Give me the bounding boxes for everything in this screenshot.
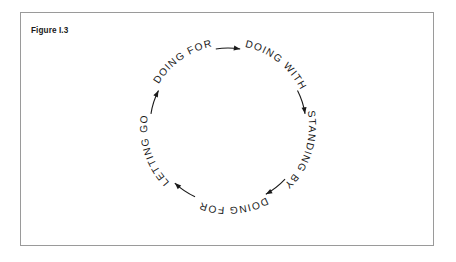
figure-root: Figure I.3 DOING FORDOING WITHSTANDING B… (0, 0, 456, 262)
cycle-label-text: STANDING BY (282, 110, 318, 192)
cycle-label-text: DOING WITH (244, 38, 309, 92)
cycle-label-doing-for-top: DOING FOR (151, 38, 213, 86)
cycle-label-standing-by: STANDING BY (282, 110, 318, 192)
cycle-label-text: LETTING GO (138, 114, 171, 188)
arrow-head-icon (266, 189, 273, 194)
cycle-diagram: DOING FORDOING WITHSTANDING BYDOING FORL… (0, 0, 456, 262)
cycle-arrow-arrow-top (216, 45, 240, 50)
cycle-arrow-arrow-right-upper (298, 91, 307, 114)
cycle-label-doing-for-bottom: DOING FOR (197, 196, 270, 216)
cycle-arrow-arrow-left-upper (151, 91, 159, 114)
cycle-label-text: DOING FOR (151, 38, 213, 86)
cycle-arrow-arrow-right-lower (266, 179, 285, 194)
cycle-label-letting-go: LETTING GO (138, 114, 171, 188)
arrow-head-icon (302, 107, 307, 114)
arrow-head-icon (153, 91, 158, 98)
cycle-label-text: DOING FOR (197, 196, 270, 216)
cycle-arrow-arrow-bottom-left (175, 183, 195, 197)
cycle-label-doing-with: DOING WITH (244, 38, 309, 92)
arrow-head-icon (233, 45, 240, 50)
cycle-label-layer: DOING FORDOING WITHSTANDING BYDOING FORL… (138, 38, 318, 216)
